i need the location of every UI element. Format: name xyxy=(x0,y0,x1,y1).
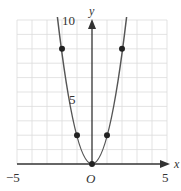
y-axis xyxy=(88,19,96,164)
y-axis-arrow-icon xyxy=(88,19,96,29)
parabola-chart: y x 10 5 −5 5 O xyxy=(0,0,181,191)
point-neg1-2 xyxy=(74,132,80,138)
y-axis-label: y xyxy=(88,4,95,18)
origin-label: O xyxy=(86,171,96,186)
point-origin xyxy=(89,161,95,167)
y-tick-10: 10 xyxy=(62,13,75,28)
x-axis-label: x xyxy=(173,157,180,171)
point-2-8 xyxy=(119,46,125,52)
point-1-2 xyxy=(104,132,110,138)
y-tick-5: 5 xyxy=(69,92,76,107)
x-tick-neg5: −5 xyxy=(6,170,20,185)
point-neg2-8 xyxy=(59,46,65,52)
x-axis-arrow-icon xyxy=(160,160,170,168)
x-tick-5: 5 xyxy=(162,170,169,185)
